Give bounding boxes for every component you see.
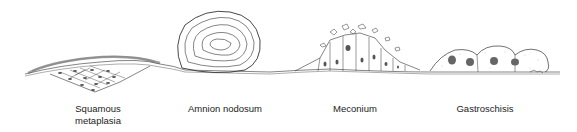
label-line-2: metaplasia	[58, 115, 138, 127]
label-line-1: Squamous	[58, 103, 138, 115]
label-meconium: Meconium	[315, 103, 395, 115]
squamous-metaplasia-drawing	[28, 57, 160, 92]
amnion-nodosum-drawing	[178, 11, 261, 72]
amnion-membrane-line	[25, 60, 560, 74]
gastroschisis-drawing	[430, 46, 549, 73]
label-squamous-metaplasia: Squamous metaplasia	[58, 103, 138, 127]
meconium-drawing	[295, 24, 420, 71]
label-gastroschisis: Gastroschisis	[440, 103, 530, 115]
label-amnion-nodosum: Amnion nodosum	[170, 103, 280, 115]
